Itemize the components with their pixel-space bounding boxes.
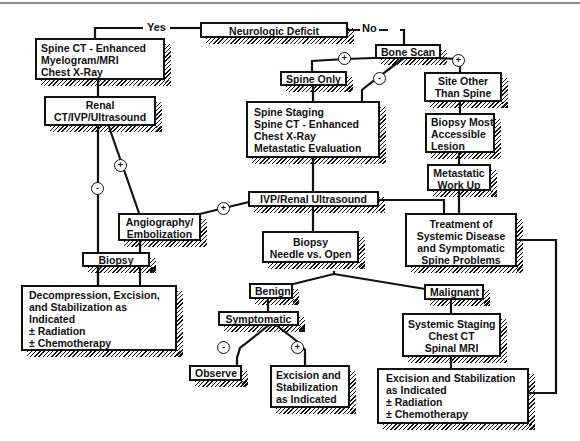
node-site-other-than-spine: Site Other Than Spine <box>424 72 502 102</box>
node-neurologic-deficit: Neurologic Deficit <box>200 22 348 38</box>
node-spine-only: Spine Only <box>280 71 347 86</box>
node-observe: Observe <box>189 365 242 381</box>
node-renal-ct: Renal CT/IVP/Ultrasound <box>44 96 156 126</box>
node-benign: Benign <box>249 283 293 299</box>
node-bone-scan: Bone Scan <box>375 44 441 59</box>
node-ivp-renal-ultrasound: IVP/Renal Ultrasound <box>248 191 379 207</box>
minus-sign-bonescan-staging: - <box>373 72 386 85</box>
node-angiography: Angiography/ Embolization <box>118 213 201 241</box>
yes-label: Yes <box>145 21 168 33</box>
node-excision-benign: Excision and Stabilization as Indicated <box>270 365 350 408</box>
node-spine-staging: Spine Staging Spine CT - Enhanced Chest … <box>246 101 380 158</box>
node-biopsy-left: Biopsy <box>82 252 150 267</box>
node-systemic-staging: Systemic Staging Chest CT Spinal MRI <box>402 313 501 357</box>
node-spine-ct-block: Spine CT - Enhanced Myelogram/MRI Chest … <box>35 38 165 80</box>
no-label: No <box>360 22 379 34</box>
node-symptomatic: Symptomatic <box>218 311 299 326</box>
plus-sign-bonescan-spineonly: + <box>338 52 351 65</box>
node-treatment-systemic-disease: Treatment of Systemic Disease and Sympto… <box>405 213 517 267</box>
node-metastatic-workup: Metastatic Work Up <box>427 164 491 191</box>
plus-sign-bonescan-siteother: + <box>452 54 465 67</box>
plus-sign-ivp-angio: + <box>217 202 230 215</box>
plus-sign-symptomatic-excision: + <box>291 341 304 354</box>
node-biopsy-most-accessible: Biopsy Most Accessible Lesion <box>425 113 495 153</box>
minus-sign-symptomatic-observe: - <box>217 341 230 354</box>
minus-sign-renal-biopsy: - <box>91 182 104 195</box>
node-excision-malignant: Excision and Stabilization as Indicated … <box>377 368 529 424</box>
node-biopsy-needle-vs-open: Biopsy Needle vs. Open <box>262 231 359 263</box>
node-decompression: Decompression, Excision, and Stabilizati… <box>21 285 177 351</box>
node-malignant: Malignant <box>424 284 484 300</box>
plus-sign-renal-angio: + <box>114 159 127 172</box>
